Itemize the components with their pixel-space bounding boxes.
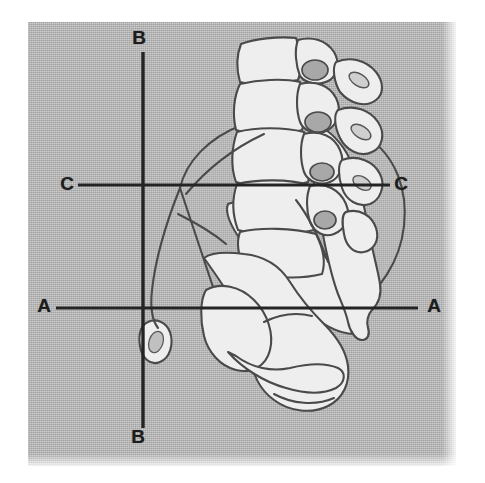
vertebral-body-l3 [232,128,310,186]
facet-joint-2 [305,112,331,132]
vertebral-body-l1 [237,37,300,84]
figure-panel [28,22,456,466]
axis-label-a-left: A [34,296,54,315]
bone-outlines [139,37,404,410]
axis-label-b-top: B [129,28,149,47]
vertebral-body-l2 [234,80,305,135]
axis-label-c-right: C [391,174,411,193]
facet-joint-1 [302,60,328,80]
axis-label-b-bottom: B [128,427,148,446]
facet-joint-4 [314,211,336,229]
figure-root: B B C C A A [0,0,485,483]
vertebral-body-l4 [233,180,316,234]
axis-label-a-right: A [424,296,444,315]
axis-label-c-left: C [57,174,77,193]
anatomy-drawing [28,22,456,466]
facet-joint-3 [310,163,334,181]
